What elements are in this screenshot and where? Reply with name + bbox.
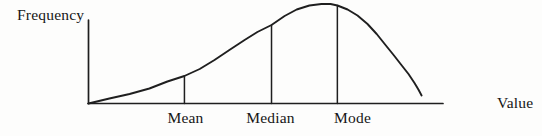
mode-label: Mode xyxy=(334,109,371,126)
median-label: Median xyxy=(246,109,295,126)
x-axis-label: Value xyxy=(497,94,533,111)
skewed-distribution-figure: Frequency Value MeanMedianMode xyxy=(0,0,542,136)
mean-label: Mean xyxy=(167,109,203,126)
distribution-curve xyxy=(89,4,422,104)
